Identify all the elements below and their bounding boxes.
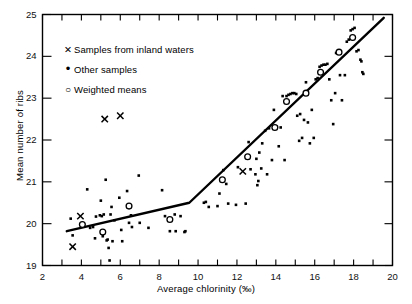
x-tick-label: 6 [100, 271, 140, 282]
legend-item-other-samples: •Other samples [62, 64, 137, 75]
cross-icon: ✕ [62, 44, 74, 55]
x-tick-label: 18 [334, 271, 374, 282]
x-tick-label: 10 [178, 271, 218, 282]
y-tick-label: 24 [1, 50, 37, 61]
y-tick-label: 20 [1, 218, 37, 229]
x-tick-label: 14 [256, 271, 296, 282]
x-tick-label: 4 [61, 271, 101, 282]
x-axis-title: Average chlorinity (‰) [0, 283, 412, 294]
x-tick-label: 16 [295, 271, 335, 282]
legend-label-other-samples: Other samples [74, 64, 137, 75]
y-tick-label: 25 [1, 9, 37, 20]
x-tick-label: 8 [139, 271, 179, 282]
y-axis-title: Mean number of ribs [14, 76, 25, 196]
dot-icon: • [62, 64, 74, 73]
x-tick-label: 20 [373, 271, 412, 282]
other-samples-points [69, 27, 364, 262]
figure-container: 246810121416182019202122232425 Average c… [0, 0, 412, 304]
circle-icon: ○ [62, 84, 74, 95]
x-tick-label: 12 [217, 271, 257, 282]
x-tick-label: 2 [23, 271, 63, 282]
legend-item-weighted-means: ○Weighted means [62, 84, 147, 95]
legend-item-inland-waters: ✕Samples from inland waters [62, 44, 194, 55]
legend-label-weighted-means: Weighted means [74, 84, 147, 95]
legend-label-inland-waters: Samples from inland waters [74, 44, 194, 55]
y-tick-label: 19 [1, 260, 37, 271]
